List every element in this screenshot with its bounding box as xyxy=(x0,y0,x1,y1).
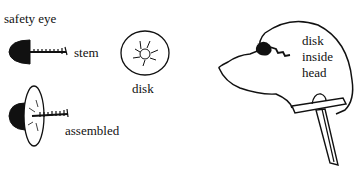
assembled-eye-icon xyxy=(9,86,68,146)
safety-eye-icon xyxy=(9,40,67,64)
head-outline-icon xyxy=(219,21,353,165)
diagram-canvas: safety eye stem disk assembled disk insi… xyxy=(0,0,363,175)
disk-icon xyxy=(121,31,169,75)
disk-inside-label-line2: inside xyxy=(302,50,333,64)
diagram-drawing xyxy=(0,0,363,175)
assembled-label: assembled xyxy=(65,124,119,138)
disk-inside-label-line3: head xyxy=(302,66,327,80)
disk-label: disk xyxy=(132,82,154,96)
stem-label: stem xyxy=(74,46,99,60)
disk-inside-label-line1: disk xyxy=(302,34,324,48)
safety-eye-label: safety eye xyxy=(4,12,56,26)
